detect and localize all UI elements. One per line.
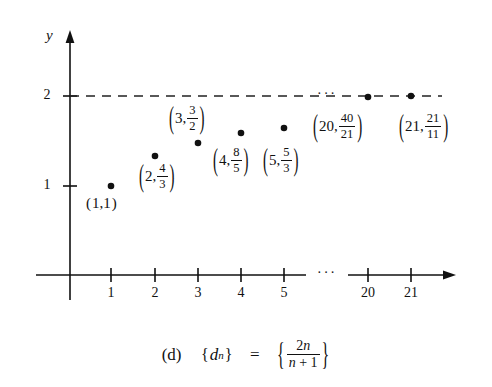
point-x: 4 bbox=[219, 153, 227, 168]
point-comma: , bbox=[183, 111, 187, 126]
x-tick-label-21: 21 bbox=[398, 286, 424, 300]
paren-open: ( bbox=[139, 160, 144, 192]
point-label-1: ( 1 , 1 ) bbox=[85, 196, 118, 211]
data-point bbox=[238, 130, 245, 137]
figure-panel: y 2 1 1 2 3 4 5 20 21 ··· ··· ( 1 , 1 ) … bbox=[0, 0, 492, 387]
sequence-symbol: d bbox=[210, 345, 219, 365]
asymptote-break-ellipsis: ··· bbox=[310, 87, 344, 101]
fraction: 8 5 bbox=[231, 146, 241, 175]
paren-close: ) bbox=[244, 144, 249, 176]
paren-close: ) bbox=[170, 160, 175, 192]
fraction: 40 21 bbox=[339, 112, 356, 141]
paren-close: ) bbox=[112, 196, 117, 211]
x-axis bbox=[36, 271, 456, 280]
paren-close: ) bbox=[357, 110, 362, 142]
y-axis bbox=[66, 30, 75, 300]
point-comma: , bbox=[153, 169, 157, 184]
data-point bbox=[195, 140, 202, 147]
point-x: 21 bbox=[405, 119, 420, 134]
point-x: 3 bbox=[175, 111, 183, 126]
plot-svg bbox=[0, 0, 492, 387]
point-comma: , bbox=[227, 153, 231, 168]
point-y: 1 bbox=[103, 196, 111, 211]
data-point bbox=[152, 153, 159, 160]
point-label-21: ( 21 , 21 11 ) bbox=[398, 112, 449, 141]
point-comma: , bbox=[420, 119, 424, 134]
brace-open: { bbox=[201, 346, 209, 364]
data-point bbox=[408, 93, 415, 100]
fraction: 4 3 bbox=[157, 162, 167, 191]
paren-close: ) bbox=[294, 144, 299, 176]
axis-break-ellipsis: ··· bbox=[310, 266, 344, 280]
paren-open: ( bbox=[169, 102, 174, 134]
x-tick-label-1: 1 bbox=[101, 286, 121, 300]
point-x: 2 bbox=[145, 169, 153, 184]
paren-close: ) bbox=[200, 102, 205, 134]
point-comma: , bbox=[334, 119, 338, 134]
point-x: 1 bbox=[92, 196, 100, 211]
y-axis-label: y bbox=[46, 28, 53, 43]
sequence-subscript: n bbox=[218, 349, 224, 361]
point-x: 5 bbox=[269, 153, 277, 168]
brace-close: } bbox=[225, 346, 233, 364]
brace-close: } bbox=[322, 337, 330, 373]
point-label-3: ( 3 , 3 2 ) bbox=[168, 104, 206, 133]
caption-letter: (d) bbox=[162, 345, 182, 365]
paren-close: ) bbox=[443, 110, 448, 142]
point-label-5: ( 5 , 5 3 ) bbox=[262, 146, 300, 175]
fraction: 5 3 bbox=[281, 146, 291, 175]
paren-open: ( bbox=[313, 110, 318, 142]
fraction-denominator: n + 1 bbox=[287, 356, 320, 370]
data-point bbox=[365, 94, 372, 101]
data-point bbox=[108, 183, 115, 190]
fraction: 21 11 bbox=[425, 112, 442, 141]
x-tick-label-5: 5 bbox=[274, 286, 294, 300]
data-point bbox=[281, 125, 288, 132]
fraction: 3 2 bbox=[187, 104, 197, 133]
point-comma: , bbox=[277, 153, 281, 168]
point-label-20: ( 20 , 40 21 ) bbox=[312, 112, 363, 141]
paren-open: ( bbox=[263, 144, 268, 176]
x-tick-label-20: 20 bbox=[355, 286, 381, 300]
y-tick-label-2: 2 bbox=[38, 88, 56, 102]
brace-open: { bbox=[277, 337, 285, 373]
point-label-2: ( 2 , 4 3 ) bbox=[138, 162, 176, 191]
paren-open: ( bbox=[213, 144, 218, 176]
paren-open: ( bbox=[399, 110, 404, 142]
figure-caption: (d) { dn } = { 2n n + 1 } bbox=[0, 339, 492, 371]
formula-fraction: 2n n + 1 bbox=[287, 339, 320, 371]
paren-open: ( bbox=[86, 196, 91, 211]
y-tick-label-1: 1 bbox=[38, 178, 56, 192]
x-tick-label-3: 3 bbox=[188, 286, 208, 300]
equals-sign: = bbox=[250, 345, 260, 365]
fraction-numerator: 2n bbox=[294, 339, 312, 353]
point-label-4: ( 4 , 8 5 ) bbox=[212, 146, 250, 175]
x-tick-label-2: 2 bbox=[145, 286, 165, 300]
x-tick-label-4: 4 bbox=[231, 286, 251, 300]
point-x: 20 bbox=[319, 119, 334, 134]
